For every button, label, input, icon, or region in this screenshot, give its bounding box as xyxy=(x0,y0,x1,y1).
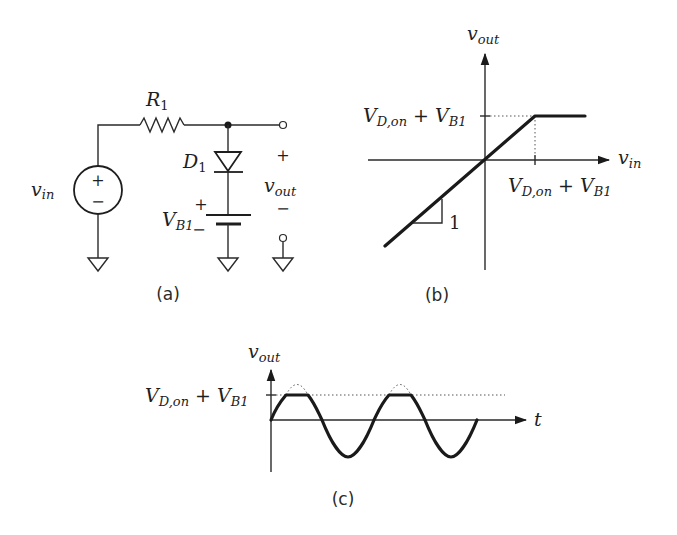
resistor-icon xyxy=(140,118,184,132)
y-tick-label: VD,on + VB1 xyxy=(363,104,467,129)
clip-level-label: VD,on + VB1 xyxy=(145,384,249,409)
output-terminal-bottom xyxy=(280,235,287,242)
source-plus: + xyxy=(91,171,104,190)
wire-source-to-resistor xyxy=(98,125,140,166)
x-axis-label: vin xyxy=(618,146,641,171)
y-axis-label: vout xyxy=(248,340,281,365)
t-axis-label: t xyxy=(534,408,542,430)
ground-icon xyxy=(218,258,238,271)
output-plus: + xyxy=(276,146,289,165)
transfer-plot-b: 1 vout vin VD,on + VB1 VD,on + VB1 (b) xyxy=(363,22,641,305)
battery-plus: + xyxy=(194,195,207,214)
caption-b: (b) xyxy=(425,285,449,305)
resistor-label: R1 xyxy=(145,88,169,113)
x-tick-label: VD,on + VB1 xyxy=(508,174,612,199)
clipped-sine-wave xyxy=(271,395,477,457)
output-terminal-top xyxy=(280,122,287,129)
circuit-a: + − vin R1 D1 VB1 + − + vout xyxy=(31,88,297,304)
caption-a: (a) xyxy=(156,284,180,304)
diode-label: D1 xyxy=(182,150,207,175)
source-minus: − xyxy=(91,192,104,211)
ground-icon xyxy=(88,258,108,271)
ground-icon xyxy=(273,258,293,271)
diode-icon xyxy=(215,152,241,171)
battery-minus: − xyxy=(192,220,205,239)
output-label: vout xyxy=(264,174,297,199)
battery-label: VB1 xyxy=(162,208,194,233)
output-minus: − xyxy=(276,199,289,218)
source-label: vin xyxy=(31,178,54,202)
slope-label: 1 xyxy=(449,212,460,233)
figure-canvas: + − vin R1 D1 VB1 + − + vout xyxy=(0,0,677,535)
y-axis-label: vout xyxy=(467,22,500,47)
waveform-plot-c: vout t VD,on + VB1 (c) xyxy=(145,340,542,509)
caption-c: (c) xyxy=(332,489,355,509)
